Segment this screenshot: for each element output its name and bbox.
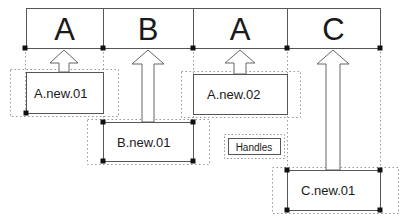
up-arrow-arrow-a-01[interactable] — [50, 50, 78, 72]
up-arrow-arrow-a-02[interactable] — [225, 50, 255, 74]
handle-dot-c-new-01-0[interactable] — [285, 168, 290, 173]
handle-dot-axis-0[interactable] — [23, 46, 28, 51]
handle-dot-axis-3[interactable] — [285, 46, 290, 51]
up-arrow-arrow-c-01[interactable] — [317, 50, 349, 170]
node-label-a-new-01: A.new.01 — [34, 86, 88, 101]
node-label-b-new-01: B.new.01 — [117, 135, 171, 150]
handle-dot-b-new-01-3[interactable] — [191, 159, 196, 164]
sequence-cell-letter-1: B — [103, 14, 193, 45]
sequence-cell-letter-0: A — [26, 14, 103, 45]
handle-dot-a-new-01-0[interactable] — [24, 111, 29, 116]
handle-dot-axis-1[interactable] — [101, 46, 106, 51]
handle-dot-b-new-01-1[interactable] — [191, 120, 196, 125]
up-arrow-arrow-b-01[interactable] — [132, 50, 164, 122]
handles-legend-label: Handles — [233, 142, 275, 153]
handle-dot-c-new-01-2[interactable] — [285, 208, 290, 213]
handle-dot-c-new-01-3[interactable] — [378, 208, 383, 213]
node-label-c-new-01: C.new.01 — [301, 183, 355, 198]
handle-dot-axis-2[interactable] — [191, 46, 196, 51]
handle-dot-b-new-01-0[interactable] — [101, 120, 106, 125]
diagram-canvas: ABACA.new.01B.new.01A.new.02C.new.01Hand… — [0, 0, 404, 222]
handle-dot-b-new-01-2[interactable] — [101, 159, 106, 164]
handle-dot-axis-4[interactable] — [378, 46, 383, 51]
sequence-cell-letter-2: A — [193, 14, 287, 45]
sequence-cell-letter-3: C — [287, 14, 380, 45]
handle-dot-c-new-01-1[interactable] — [378, 168, 383, 173]
node-label-a-new-02: A.new.02 — [207, 87, 261, 102]
